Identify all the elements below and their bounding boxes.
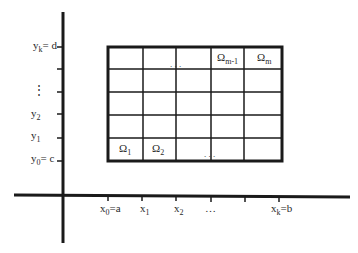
y-label-ellipsis: ⋮ bbox=[33, 84, 45, 96]
y-label-k: yk= d bbox=[33, 40, 57, 54]
x-label-0: x0=a bbox=[100, 203, 121, 217]
cell-top-ellipsis: . . . bbox=[170, 60, 181, 69]
x-label-ellipsis: … bbox=[205, 203, 216, 214]
cell-omega-1: Ω1 bbox=[119, 143, 131, 157]
cell-omega-m: Ωm bbox=[257, 52, 271, 66]
y-label-1: y1 bbox=[31, 130, 41, 144]
x-axis bbox=[14, 195, 350, 197]
y-label-0: y0= c bbox=[31, 153, 54, 167]
cell-bottom-ellipsis: . . . bbox=[204, 150, 215, 159]
domain-rectangle bbox=[108, 47, 282, 161]
cell-omega-2: Ω2 bbox=[152, 143, 164, 157]
x-label-1: x1 bbox=[140, 203, 150, 217]
y-label-2: y2 bbox=[31, 108, 41, 122]
x-label-2: x2 bbox=[174, 203, 184, 217]
grid-lines bbox=[108, 47, 282, 161]
cell-omega-m-minus-1: Ωm-1 bbox=[217, 52, 238, 66]
x-label-k: xk=b bbox=[271, 203, 292, 217]
